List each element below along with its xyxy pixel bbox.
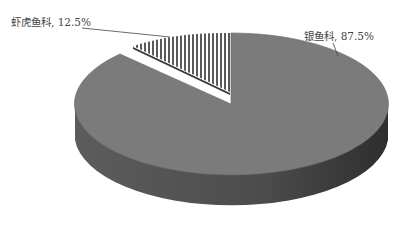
pie-chart-3d: 虾虎鱼科, 12.5% 银鱼科, 87.5% [0,0,404,226]
leader-line-goby [82,28,170,37]
slice-icefish [74,33,388,175]
label-goby: 虾虎鱼科, 12.5% [11,16,91,28]
label-icefish: 银鱼科, 87.5% [304,30,374,42]
